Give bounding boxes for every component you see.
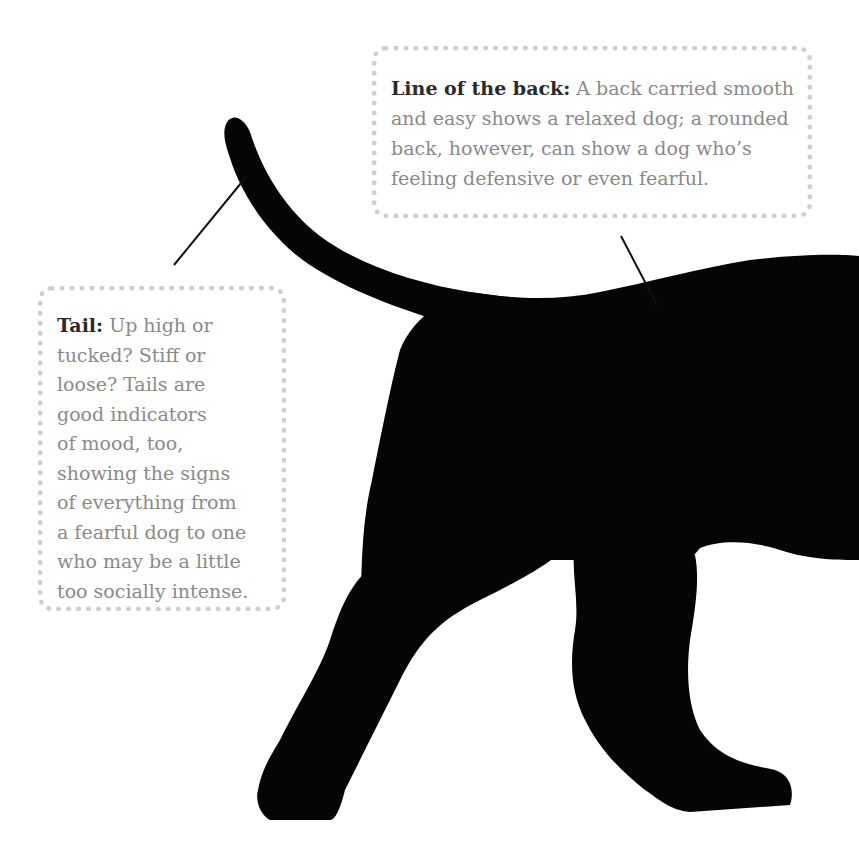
dog-hind-leg-right — [572, 540, 792, 812]
line-of-back-callout: Line of the back: A back carried smooth … — [372, 46, 812, 218]
callout-text: a fearful dog to one — [57, 518, 281, 548]
callout-text: feeling defensive or even fearful. — [391, 163, 807, 193]
callout-text: Up high or — [109, 314, 213, 336]
tail-callout: Tail: Up high or tucked? Stiff or loose?… — [38, 286, 286, 611]
callout-text: too socially intense. — [57, 577, 281, 607]
callout-text: back, however, can show a dog who’s — [391, 133, 807, 163]
callout-text: A back carried smooth — [576, 77, 794, 99]
tail-pointer-line — [174, 177, 246, 265]
callout-text: tucked? Stiff or — [57, 341, 281, 371]
callout-heading: Tail: — [57, 314, 103, 336]
dog-hind-leg-left — [257, 525, 570, 820]
callout-text: showing the signs — [57, 459, 281, 489]
callout-heading: Line of the back: — [391, 77, 570, 99]
callout-text: good indicators — [57, 400, 281, 430]
callout-text: loose? Tails are — [57, 370, 281, 400]
callout-text: who may be a little — [57, 547, 281, 577]
callout-text: of mood, too, — [57, 429, 281, 459]
callout-text: and easy shows a relaxed dog; a rounded — [391, 103, 807, 133]
callout-text: of everything from — [57, 488, 281, 518]
